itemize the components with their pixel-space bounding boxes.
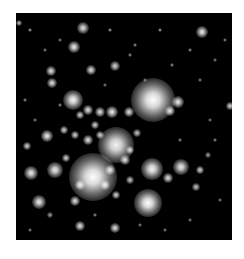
star xyxy=(141,158,163,180)
star xyxy=(76,111,84,119)
star xyxy=(133,129,141,137)
star xyxy=(33,118,37,122)
star xyxy=(124,107,134,117)
star xyxy=(43,48,47,52)
star xyxy=(69,153,117,201)
star xyxy=(163,173,173,183)
star xyxy=(192,183,200,191)
star xyxy=(75,221,85,231)
star xyxy=(71,131,79,139)
star xyxy=(196,26,208,38)
star xyxy=(60,126,68,134)
star xyxy=(103,83,107,87)
star xyxy=(112,191,120,199)
star xyxy=(77,22,89,34)
star xyxy=(47,212,53,218)
star xyxy=(28,28,32,32)
star xyxy=(28,228,32,232)
star xyxy=(24,166,38,180)
star xyxy=(91,121,99,129)
star xyxy=(47,78,57,88)
star xyxy=(143,78,147,82)
star xyxy=(41,130,53,142)
star xyxy=(23,98,27,102)
star xyxy=(108,28,112,32)
star xyxy=(188,218,192,222)
star-cluster-image xyxy=(16,13,232,240)
star xyxy=(68,41,80,53)
star xyxy=(188,48,192,52)
star xyxy=(110,61,120,71)
star xyxy=(58,103,62,107)
star xyxy=(170,63,174,67)
star xyxy=(133,43,137,47)
star xyxy=(165,106,175,116)
star xyxy=(96,131,104,139)
star xyxy=(223,38,227,42)
star xyxy=(213,58,217,62)
star xyxy=(134,189,162,217)
star xyxy=(110,223,120,233)
star xyxy=(83,135,93,145)
star xyxy=(46,66,56,76)
star xyxy=(158,28,162,32)
star xyxy=(63,90,83,110)
star xyxy=(47,162,63,178)
star xyxy=(98,127,134,163)
star xyxy=(213,138,217,142)
star xyxy=(172,96,184,108)
star xyxy=(23,142,31,150)
star xyxy=(196,166,204,174)
star xyxy=(128,53,132,57)
star xyxy=(120,155,130,165)
star xyxy=(226,102,232,110)
star xyxy=(205,152,211,158)
star xyxy=(95,107,105,117)
star xyxy=(70,196,80,206)
star xyxy=(32,195,46,209)
star xyxy=(75,180,85,190)
star xyxy=(218,198,222,202)
star xyxy=(138,223,142,227)
star xyxy=(126,146,134,154)
star xyxy=(86,65,96,75)
star xyxy=(106,106,118,118)
star xyxy=(105,165,115,175)
star xyxy=(208,118,212,122)
star xyxy=(178,138,182,142)
star xyxy=(131,78,175,122)
star xyxy=(93,213,97,217)
star xyxy=(173,159,189,175)
star xyxy=(16,20,22,26)
star xyxy=(198,78,202,82)
star xyxy=(126,176,134,184)
star xyxy=(58,38,62,42)
star xyxy=(62,154,70,162)
star xyxy=(100,180,110,190)
star xyxy=(83,105,93,115)
star xyxy=(163,228,167,232)
